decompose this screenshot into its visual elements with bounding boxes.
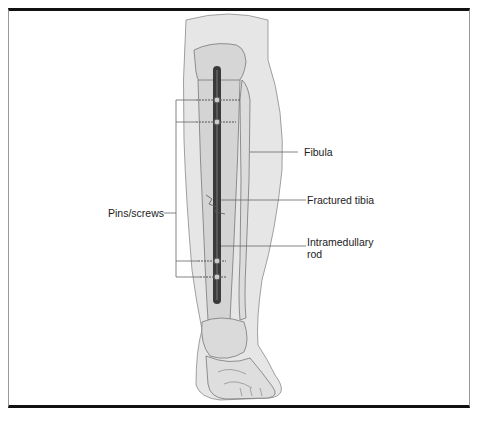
- label-intramedullary-rod-2: rod: [307, 248, 322, 260]
- leg-illustration: [0, 0, 477, 425]
- label-fractured-tibia: Fractured tibia: [307, 194, 374, 206]
- label-fibula: Fibula: [304, 146, 333, 158]
- label-intramedullary-rod-1: Intramedullary: [307, 236, 374, 248]
- ankle-bones: [202, 318, 247, 358]
- label-pins-screws: Pins/screws: [108, 207, 164, 219]
